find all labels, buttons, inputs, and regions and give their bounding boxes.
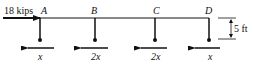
support-point-d bbox=[207, 38, 211, 42]
reaction-label-d: x bbox=[207, 51, 213, 62]
reaction-label-b: 2x bbox=[91, 51, 101, 62]
support-point-c bbox=[153, 38, 157, 42]
node-c: C 2x bbox=[141, 5, 167, 62]
node-label-a: A bbox=[40, 5, 48, 16]
support-point-b bbox=[93, 38, 97, 42]
dimension-label: 5 ft bbox=[234, 23, 248, 34]
reaction-label-a: x bbox=[37, 51, 43, 62]
node-label-d: D bbox=[204, 5, 213, 16]
node-label-c: C bbox=[153, 5, 160, 16]
dimension-5ft: 5 ft bbox=[218, 18, 248, 39]
applied-load-label: 18 kips bbox=[4, 5, 33, 16]
node-label-b: B bbox=[91, 5, 97, 16]
support-point-a bbox=[38, 38, 42, 42]
reaction-label-c: 2x bbox=[151, 51, 161, 62]
node-b: B 2x bbox=[81, 5, 108, 62]
node-d: D x bbox=[195, 5, 220, 62]
frame-diagram: 18 kips A x B 2x C 2x D x bbox=[0, 0, 254, 70]
